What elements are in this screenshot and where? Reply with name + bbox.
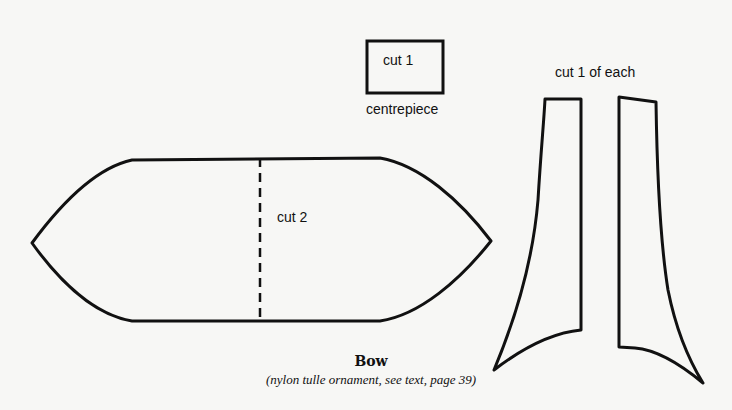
- pattern-drawing: [0, 0, 732, 410]
- bow-cut-label: cut 2: [277, 209, 307, 225]
- figure-caption: (nylon tulle ornament, see text, page 39…: [0, 372, 732, 388]
- bow-outline: [32, 158, 491, 321]
- right-tail-outline: [619, 97, 703, 383]
- figure-caption-text: (nylon tulle ornament, see text, page 39…: [266, 372, 476, 388]
- tails-cut-label: cut 1 of each: [555, 64, 635, 80]
- left-tail-outline: [494, 99, 581, 370]
- centrepiece-cut-label: cut 1: [383, 52, 413, 68]
- centrepiece-name-label: centrepiece: [366, 101, 438, 117]
- figure-title: Bow: [0, 353, 732, 369]
- figure-title-text: Bow: [354, 353, 387, 369]
